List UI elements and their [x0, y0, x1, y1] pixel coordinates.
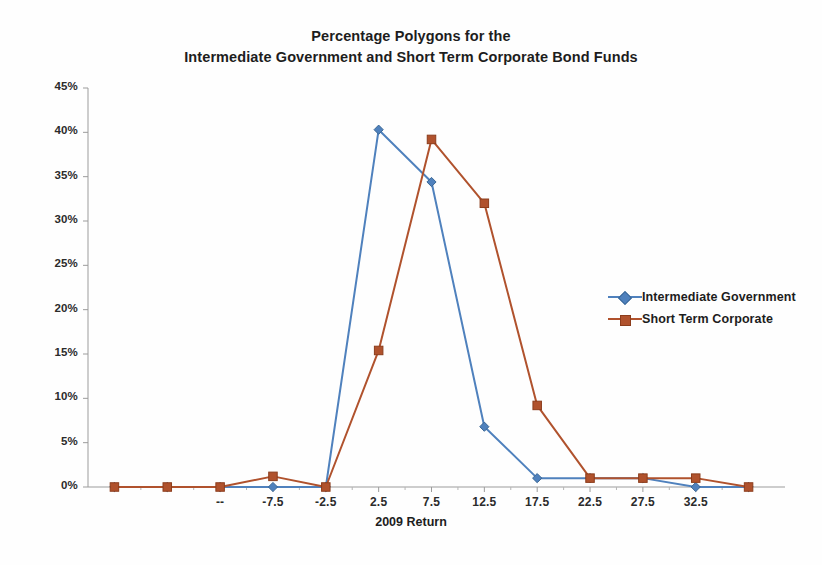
x-axis-tick-label: -7.5: [243, 495, 303, 509]
legend-marker-square-icon: [608, 312, 642, 326]
y-axis-tick-label: 0%: [36, 479, 78, 491]
chart-container: Percentage Polygons for the Intermediate…: [0, 0, 822, 565]
legend-item-intermediate-government: Intermediate Government: [608, 286, 796, 308]
x-axis-tick-label: 7.5: [402, 495, 462, 509]
y-axis-tick-label: 25%: [36, 257, 78, 269]
x-axis-tick-label: 27.5: [613, 495, 673, 509]
y-axis-tick-label: 10%: [36, 390, 78, 402]
y-axis-tick-label: 45%: [36, 80, 78, 92]
y-axis-tick-label: 5%: [36, 435, 78, 447]
x-axis-tick-label: 17.5: [507, 495, 567, 509]
y-axis-tick-label: 40%: [36, 124, 78, 136]
legend-item-short-term-corporate: Short Term Corporate: [608, 308, 796, 330]
legend-label-short-term-corporate: Short Term Corporate: [642, 312, 773, 326]
x-axis-tick-label: 2.5: [349, 495, 409, 509]
x-axis-tick-label: 12.5: [454, 495, 514, 509]
legend-label-intermediate-government: Intermediate Government: [642, 290, 796, 304]
y-axis-tick-label: 20%: [36, 302, 78, 314]
x-axis-tick-label: --: [190, 495, 250, 509]
y-axis-tick-label: 35%: [36, 169, 78, 181]
x-axis-tick-label: -2.5: [296, 495, 356, 509]
x-axis-tick-label: 32.5: [666, 495, 726, 509]
x-axis-title: 2009 Return: [0, 515, 822, 529]
chart-legend: Intermediate Government Short Term Corpo…: [608, 286, 796, 330]
y-axis-tick-label: 30%: [36, 213, 78, 225]
chart-plot-area: [0, 0, 822, 565]
legend-marker-diamond-icon: [608, 290, 642, 304]
y-axis-tick-label: 15%: [36, 346, 78, 358]
x-axis-tick-label: 22.5: [560, 495, 620, 509]
